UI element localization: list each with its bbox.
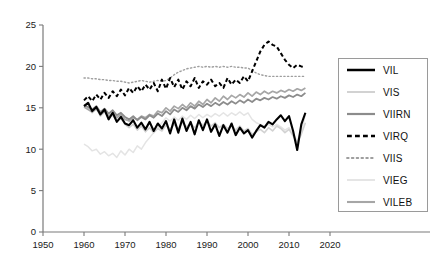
series-group [84, 42, 305, 158]
legend-label: VIIRN [383, 109, 411, 120]
x-tick-label: 2000 [237, 239, 258, 250]
legend-swatch-vieg-icon [346, 174, 376, 186]
x-tick-label: 1980 [155, 239, 176, 250]
legend-label: VIS [383, 87, 400, 98]
y-tick-label: 20 [25, 61, 36, 72]
y-tick-label: 10 [25, 144, 36, 155]
legend-label: VIRQ [383, 131, 408, 142]
y-tick-label: 25 [25, 19, 36, 30]
legend-swatch-vileb-icon [346, 196, 376, 208]
chart-legend: VILVISVIIRNVIRQVIISVIEGVILEB [338, 58, 428, 212]
legend-label: VIIS [383, 153, 403, 164]
legend-label: VILEB [383, 197, 412, 208]
legend-swatch-viis-icon [346, 152, 376, 164]
x-tick-label: 1990 [196, 239, 217, 250]
y-tick-label: 0 [31, 226, 36, 237]
legend-item-vieg[interactable]: VIEG [339, 169, 427, 191]
legend-item-viirn[interactable]: VIIRN [339, 103, 427, 125]
legend-label: VIEG [383, 175, 408, 186]
legend-item-vileb[interactable]: VILEB [339, 191, 427, 213]
legend-label: VIL [383, 65, 399, 76]
legend-item-vis[interactable]: VIS [339, 81, 427, 103]
x-tick-label: 2020 [319, 239, 340, 250]
x-tick-label: 1960 [73, 239, 94, 250]
y-tick-label: 15 [25, 102, 36, 113]
legend-item-viis[interactable]: VIIS [339, 147, 427, 169]
legend-swatch-viirn-icon [346, 108, 376, 120]
legend-swatch-vil-icon [346, 64, 376, 76]
series-line-viis [84, 66, 305, 83]
legend-item-virq[interactable]: VIRQ [339, 125, 427, 147]
legend-item-vil[interactable]: VIL [339, 59, 427, 81]
legend-swatch-vis-icon [346, 86, 376, 98]
x-tick-label: 2010 [278, 239, 299, 250]
series-line-vileb [84, 88, 305, 121]
y-tick-label: 5 [31, 185, 36, 196]
x-tick-label: 1970 [114, 239, 135, 250]
x-tick-label: 1950 [32, 239, 53, 250]
legend-swatch-virq-icon [346, 130, 376, 142]
